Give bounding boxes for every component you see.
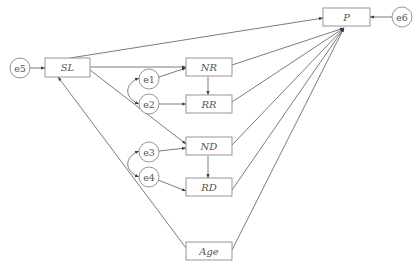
path-nd-p	[232, 28, 344, 145]
error-e1: e1	[139, 69, 159, 89]
node-label: Age	[198, 246, 219, 257]
error-e3: e3	[139, 142, 159, 162]
node-p: P	[323, 8, 370, 26]
path-e4-rd	[158, 180, 186, 191]
path-rd-p	[232, 28, 344, 190]
error-label: e3	[143, 147, 155, 158]
error-label: e6	[396, 12, 408, 23]
node-rd: RD	[186, 178, 232, 196]
node-label: NR	[200, 62, 218, 73]
path-sl-nd	[90, 70, 186, 144]
error-e5: e5	[10, 58, 30, 78]
path-age-p	[232, 28, 344, 250]
edges	[30, 17, 392, 250]
error-label: e5	[14, 63, 26, 74]
error-e4: e4	[139, 167, 159, 187]
node-label: ND	[200, 141, 218, 152]
error-label: e4	[143, 172, 155, 183]
error-e2: e2	[139, 94, 159, 114]
node-nr: NR	[186, 58, 232, 76]
node-sl: SL	[45, 58, 90, 77]
path-age-sl	[58, 77, 186, 248]
path-sl-p	[70, 18, 323, 58]
path-nr-p	[232, 28, 344, 65]
error-label: e1	[143, 74, 155, 85]
node-label: RR	[200, 99, 217, 110]
node-label: RD	[200, 182, 217, 193]
node-label: P	[342, 12, 350, 23]
error-e6: e6	[392, 7, 412, 27]
node-label: SL	[61, 62, 75, 73]
node-nd: ND	[186, 137, 232, 155]
path-e3-nd	[159, 148, 186, 151]
node-rr: RR	[186, 95, 232, 113]
error-label: e2	[143, 99, 155, 110]
path-e1-nr	[159, 68, 186, 77]
node-age: Age	[186, 242, 232, 260]
path-rr-p	[232, 28, 344, 102]
path-diagram: P SL NR RR ND RD Age e1 e2 e3 e4	[0, 0, 415, 266]
